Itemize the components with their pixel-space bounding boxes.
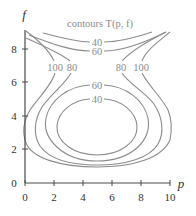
x-tick-label: 4 <box>80 191 86 203</box>
contour-label-60-top: 60 <box>92 46 103 57</box>
y-tick-label: 2 <box>11 143 17 155</box>
contour-100-right <box>142 32 171 140</box>
x-tick-label: 2 <box>51 191 57 203</box>
contour-40-inner <box>57 99 137 155</box>
x-tick-labels: 0 2 4 6 8 10 <box>22 191 176 203</box>
contour-label-80-right: 80 <box>116 62 127 73</box>
y-tick-label: 8 <box>11 43 17 55</box>
y-tick-label: 0 <box>11 177 17 189</box>
contour-label-80-left: 80 <box>67 62 78 73</box>
chart-title: contours T(p, f) <box>67 18 134 30</box>
y-axis-label: f <box>22 7 28 22</box>
x-tick-label: 6 <box>109 191 115 203</box>
contour-plot: 40 60 100 80 80 100 60 40 contours T(p, … <box>0 0 196 216</box>
x-tick-label: 10 <box>165 191 177 203</box>
contour-label-60-inner: 60 <box>92 80 103 91</box>
x-axis-label: p <box>177 176 185 191</box>
y-tick-label: 6 <box>11 76 17 88</box>
contour-label-100-left: 100 <box>47 62 63 73</box>
y-tick-label: 4 <box>11 110 17 122</box>
x-tick-label: 8 <box>138 191 144 203</box>
y-tick-labels: 0 2 4 6 8 <box>11 43 17 189</box>
contour-label-100-right: 100 <box>133 62 149 73</box>
contour-label-40-inner: 40 <box>92 94 103 105</box>
x-tick-label: 0 <box>22 191 28 203</box>
